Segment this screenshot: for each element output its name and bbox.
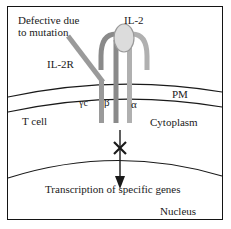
label-il2: IL-2 (124, 14, 144, 26)
beta-chain-transmembrane (114, 40, 119, 123)
label-t-cell: T cell (22, 115, 47, 127)
label-defective-line1: Defective due (18, 14, 79, 26)
label-pm: PM (172, 88, 188, 100)
nuclear-envelope-line (8, 160, 222, 178)
label-defective-due-to-mutation: Defective due to mutation (18, 14, 79, 39)
alpha-chain-transmembrane (127, 40, 132, 123)
label-alpha-chain: α (131, 98, 137, 110)
label-beta-chain: β (104, 96, 110, 108)
label-transcription: Transcription of specific genes (45, 183, 181, 195)
label-nucleus: Nucleus (160, 205, 196, 217)
il2-receptor-diagram: Defective due to mutation IL-2 IL-2R PM … (0, 0, 231, 229)
label-cytoplasm: Cytoplasm (150, 116, 198, 128)
il2-ligand-ellipse (114, 24, 134, 52)
label-il2r: IL-2R (47, 58, 74, 70)
label-defective-line2: to mutation (18, 26, 79, 38)
label-gamma-c-chain: γc (79, 97, 88, 108)
